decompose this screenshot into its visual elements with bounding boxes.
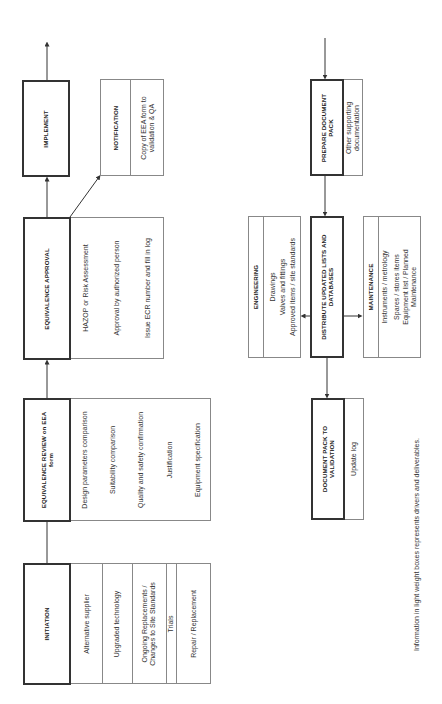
validation-text: Update log: [349, 442, 357, 476]
maintenance-item: Equipment list / Planned Maintenance: [403, 249, 419, 325]
validation-box: DOCUMENT PACK TO VALIDATION: [311, 398, 345, 520]
review-item: Quality and safety confirmation: [136, 411, 144, 507]
approval-items-box: HAZOP or Risk Assessment Approval by aut…: [70, 217, 164, 359]
review-item: Justification: [165, 441, 173, 478]
notification-title: NOTIFICATION: [112, 105, 119, 150]
driver-trials: Trials: [167, 615, 175, 632]
maintenance-title: MAINTENANCE: [367, 264, 374, 311]
approval-title: EQUIVALENCE APPROVAL: [43, 248, 50, 330]
validation-title: DOCUMENT PACK TO VALIDATION: [321, 426, 335, 492]
validation-deliverable-box: Update log: [343, 398, 364, 520]
prepare-pack-text: Other supporting documentation: [344, 101, 360, 153]
initiation-title: INITIATION: [43, 607, 50, 640]
implement-title: IMPLEMENT: [42, 110, 49, 147]
engineering-box: ENGINEERING Drawings Valves and fittings…: [248, 216, 301, 358]
footnote: Information in light weight boxes repres…: [413, 438, 420, 651]
review-title: EQUIVALENCE REVIEW on EEA form: [40, 412, 54, 509]
notification-box: NOTIFICATION Copy of EEA form to validat…: [100, 79, 164, 176]
distribute-title: DISTRIBUTE UPDATED LISTS AND DATABASES: [320, 234, 334, 339]
approval-box: EQUIVALENCE APPROVAL: [23, 217, 71, 360]
driver-alternative-supplier: Alternative supplier: [82, 594, 90, 654]
initiation-box: INITIATION: [23, 563, 71, 685]
review-item: Equipment specification: [193, 423, 201, 497]
implement-box: IMPLEMENT: [22, 80, 70, 177]
review-items-box: Design parameters comparison Suitability…: [70, 398, 211, 521]
prepare-pack-deliverable-box: Other supporting documentation: [342, 79, 363, 176]
driver-repair-replacement: Repair / Replacement: [190, 590, 198, 658]
prepare-pack-title: PREPARE DOCUMENT PACK: [320, 93, 334, 162]
maintenance-box: MAINTENANCE Instruments / metrology Spar…: [363, 216, 421, 358]
approval-item: Approval by authorized person: [113, 241, 121, 336]
driver-upgraded-technology: Upgraded technology: [113, 590, 121, 657]
maintenance-item: Instruments / metrology: [381, 250, 389, 323]
maintenance-item: Spares / stores items: [393, 254, 401, 320]
prepare-pack-box: PREPARE DOCUMENT PACK: [310, 79, 344, 176]
engineering-item: Approved items / site standards: [289, 238, 297, 336]
engineering-item: Drawings: [268, 272, 276, 301]
review-item: Suitability comparison: [108, 425, 116, 493]
driver-ongoing-replacements: Ongoing Replacements / Changes to Site S…: [141, 582, 157, 666]
engineering-item: Valves and fittings: [278, 259, 286, 315]
distribute-box: DISTRIBUTE UPDATED LISTS AND DATABASES: [310, 216, 344, 358]
notification-text: Copy of EEA form to validation & QA: [139, 96, 155, 159]
approval-item: Issue ECR number and fill in log: [144, 238, 152, 338]
review-box: EQUIVALENCE REVIEW on EEA form: [23, 398, 71, 522]
review-item: Design parameters comparison: [80, 411, 88, 508]
initiation-drivers-box: Alternative supplier Upgraded technology…: [70, 563, 211, 684]
engineering-title: ENGINEERING: [252, 265, 259, 309]
approval-item: HAZOP or Risk Assessment: [82, 244, 90, 331]
